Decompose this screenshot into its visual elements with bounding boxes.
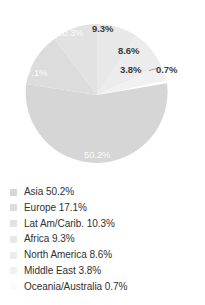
- legend: Asia 50.2% Europe 17.1% Lat Am/Carib. 10…: [0, 184, 205, 295]
- legend-label-middle-east: Middle East 3.8%: [24, 263, 101, 279]
- legend-label-north-america: North America 8.6%: [24, 247, 112, 263]
- legend-item-europe[interactable]: Europe 17.1%: [0, 200, 205, 216]
- pie-plot-area: 9.3% 8.6% 3.8% 0.7% 50.2% 17.1% 10.3%: [0, 0, 205, 180]
- pie-label-oceania-australia: 0.7%: [156, 64, 177, 75]
- legend-label-oceania-australia: Oceania/Australia 0.7%: [24, 279, 127, 295]
- clipped-bottom-row: [0, 298, 205, 305]
- pie-label-africa: 9.3%: [92, 23, 113, 34]
- legend-item-asia[interactable]: Asia 50.2%: [0, 184, 205, 200]
- pie-label-europe: 17.1%: [21, 67, 47, 78]
- legend-item-africa[interactable]: Africa 9.3%: [0, 231, 205, 247]
- legend-swatch-europe: [10, 204, 17, 211]
- legend-swatch-asia: [10, 189, 17, 196]
- legend-swatch-africa: [10, 236, 17, 243]
- legend-label-europe: Europe 17.1%: [24, 200, 87, 216]
- pie-label-lat-am-carib: 10.3%: [57, 27, 83, 38]
- legend-item-middle-east[interactable]: Middle East 3.8%: [0, 263, 205, 279]
- pie-label-asia: 50.2%: [84, 149, 110, 160]
- legend-swatch-lat-am-carib: [10, 220, 17, 227]
- pie-label-middle-east: 3.8%: [120, 64, 141, 75]
- legend-item-lat-am-carib[interactable]: Lat Am/Carib. 10.3%: [0, 216, 205, 232]
- legend-swatch-oceania-australia: [10, 283, 17, 290]
- legend-item-oceania-australia[interactable]: Oceania/Australia 0.7%: [0, 279, 205, 295]
- legend-swatch-north-america: [10, 252, 17, 259]
- pie-label-north-america: 8.6%: [118, 45, 139, 56]
- clipped-bottom-text: [24, 298, 27, 302]
- legend-label-africa: Africa 9.3%: [24, 231, 75, 247]
- legend-item-north-america[interactable]: North America 8.6%: [0, 247, 205, 263]
- legend-label-asia: Asia 50.2%: [24, 184, 74, 200]
- legend-swatch-middle-east: [10, 267, 17, 274]
- legend-label-lat-am-carib: Lat Am/Carib. 10.3%: [24, 216, 115, 232]
- pie-chart-figure: 9.3% 8.6% 3.8% 0.7% 50.2% 17.1% 10.3% As…: [0, 0, 205, 305]
